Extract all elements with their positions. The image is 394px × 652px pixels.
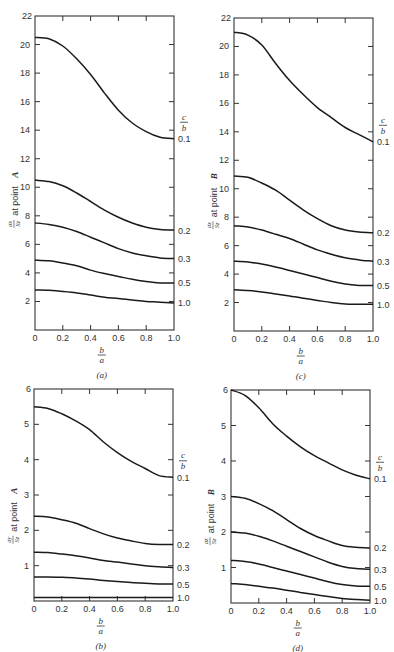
svg-text:b: b <box>182 123 187 133</box>
curve-label: 0.2 <box>377 228 390 238</box>
svg-text:σy: σy <box>5 537 12 543</box>
x-axis-label: ba <box>97 616 105 636</box>
y-tick-label: 6 <box>26 384 31 394</box>
svg-text:c: c <box>381 115 385 125</box>
svg-text:b: b <box>378 463 383 473</box>
x-axis: 00.20.40.60.81.0 <box>231 18 379 344</box>
x-tick-label: 0.2 <box>253 606 266 616</box>
chart-panel-d: 00.20.40.60.81.0ba(d)612345σzSzat point … <box>202 385 387 652</box>
svg-text:b: b <box>181 461 186 471</box>
x-axis-label: ba <box>294 618 302 638</box>
svg-text:B: B <box>206 489 216 496</box>
y-tick-label: 10 <box>219 184 229 194</box>
legend-title: cb <box>180 112 188 133</box>
x-tick-label: 0.6 <box>311 334 324 344</box>
x-axis: 00.20.40.60.81.0 <box>228 390 376 616</box>
x-tick-label: 0 <box>228 606 233 616</box>
curve-cb-0.5 <box>35 260 174 283</box>
x-tick-label: 0.2 <box>56 604 69 614</box>
legend-title: cb <box>379 115 387 136</box>
y-axis-label: σxSzat point A <box>6 172 21 228</box>
svg-text:σz: σz <box>202 538 209 544</box>
curve-cb-0.5 <box>234 261 373 285</box>
curve-cb-0.1 <box>234 32 373 142</box>
y-tick-label: 8 <box>224 212 229 222</box>
svg-text:a: a <box>98 626 103 636</box>
y-tick-label: 2 <box>221 527 226 537</box>
y-tick-label: 18 <box>219 70 229 80</box>
x-tick-label: 1.0 <box>167 604 180 614</box>
chart-panel-c: 00.20.40.60.81.0ba(c)222468101214161820σ… <box>205 13 390 381</box>
panel-caption: (b) <box>95 641 106 651</box>
y-axis: 222468101214161820 <box>219 13 373 308</box>
legend-title: cb <box>179 450 187 471</box>
curve-cb-0.5 <box>34 577 173 584</box>
x-tick-label: 0 <box>32 333 37 343</box>
series-curves: 0.10.20.30.51.0 <box>234 32 390 310</box>
curve-label: 0.3 <box>374 565 387 575</box>
y-tick-label: 3 <box>24 490 29 500</box>
curve-cb-0.1 <box>35 37 174 138</box>
x-axis: 00.20.40.60.81.0 <box>32 16 180 343</box>
x-tick-label: 0.4 <box>283 334 296 344</box>
x-tick-label: 0.6 <box>308 606 321 616</box>
y-axis: 222468101214161820 <box>20 11 174 306</box>
charts-canvas: 00.20.40.60.81.0ba(a)222468101214161820σ… <box>0 0 394 652</box>
plot-frame <box>34 389 173 601</box>
y-tick-label: 1 <box>24 561 29 571</box>
series-curves: 0.10.20.30.51.0 <box>231 390 387 606</box>
curve-label: 1.0 <box>377 300 390 310</box>
curve-label: 0.5 <box>178 278 191 288</box>
x-tick-label: 0 <box>31 604 36 614</box>
svg-text:b: b <box>99 345 104 355</box>
y-tick-label: 16 <box>219 98 229 108</box>
curve-cb-1.0 <box>234 290 373 305</box>
svg-text:b: b <box>298 346 303 356</box>
curve-label: 0.2 <box>374 543 387 553</box>
x-tick-label: 1.0 <box>168 333 181 343</box>
svg-text:A: A <box>9 488 19 495</box>
y-tick-label: 16 <box>20 97 30 107</box>
svg-text:at point: at point <box>209 187 219 217</box>
svg-text:a: a <box>298 356 303 366</box>
svg-text:A: A <box>10 172 20 179</box>
svg-text:Sz: Sz <box>13 536 20 542</box>
figure-panel-grid: 00.20.40.60.81.0ba(a)222468101214161820σ… <box>0 0 394 652</box>
curve-label: 1.0 <box>374 596 387 606</box>
x-tick-label: 0.6 <box>111 604 124 614</box>
plot-frame <box>231 390 370 603</box>
y-tick-label: 2 <box>24 525 29 535</box>
x-tick-label: 0.8 <box>139 604 152 614</box>
curve-label: 0.5 <box>377 281 390 291</box>
x-axis-label: ba <box>297 346 305 366</box>
y-tick-label: 18 <box>20 68 30 78</box>
chart-panel-a: 00.20.40.60.81.0ba(a)222468101214161820σ… <box>6 11 191 380</box>
x-tick-label: 0.8 <box>339 334 352 344</box>
x-tick-label: 0.4 <box>83 604 96 614</box>
x-tick-label: 0.6 <box>112 333 125 343</box>
curve-label: 0.5 <box>374 582 387 592</box>
svg-text:at point: at point <box>9 502 19 532</box>
svg-text:at point: at point <box>10 186 20 216</box>
y-tick-label: 1 <box>221 563 226 573</box>
x-tick-label: 0.8 <box>336 606 349 616</box>
x-tick-label: 1.0 <box>367 334 380 344</box>
y-tick-label: 3 <box>221 492 226 502</box>
y-tick-label: 22 <box>22 11 32 21</box>
legend-title: cb <box>376 452 384 473</box>
y-tick-label: 4 <box>221 456 226 466</box>
curve-label: 0.1 <box>178 134 191 144</box>
y-tick-label: 6 <box>25 239 30 249</box>
series-curves: 0.10.20.30.51.0 <box>35 37 191 308</box>
x-tick-label: 1.0 <box>364 606 377 616</box>
panel-caption: (a) <box>96 370 107 380</box>
panel-caption: (c) <box>296 371 306 381</box>
svg-text:b: b <box>381 126 386 136</box>
y-tick-label: 14 <box>219 127 229 137</box>
x-tick-label: 0 <box>231 334 236 344</box>
curve-label: 0.1 <box>374 474 387 484</box>
y-tick-label: 4 <box>25 268 30 278</box>
svg-text:b: b <box>295 618 300 628</box>
x-tick-label: 0.2 <box>256 334 269 344</box>
y-tick-label: 20 <box>20 40 30 50</box>
